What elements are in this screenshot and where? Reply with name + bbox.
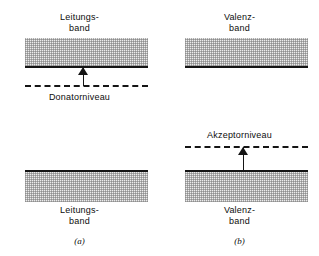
panel-b-akzeptor-level-label: Akzeptorniveau bbox=[160, 130, 319, 141]
arrow-head-up-icon bbox=[78, 67, 88, 75]
panel-b-upper-band-label: Valenz- band bbox=[160, 12, 319, 34]
arrow-head-up-icon bbox=[238, 147, 248, 155]
panel-a-upper-band-label-line1: Leitungs- bbox=[0, 12, 159, 23]
panel-b-lower-band-label-line2: band bbox=[160, 216, 319, 227]
panel-b-upper-band bbox=[185, 38, 308, 68]
panel-b-upper-band-label-line1: Valenz- bbox=[160, 12, 319, 23]
panel-b-upper-band-label-line2: band bbox=[160, 23, 319, 34]
panel-b-lower-band bbox=[185, 170, 308, 202]
panel-a-lower-band-label: Leitungs- band bbox=[0, 205, 159, 227]
panel-b: Valenz- band Akzeptorniveau Valenz- band… bbox=[160, 0, 319, 256]
panel-a-lower-band-label-line1: Leitungs- bbox=[0, 205, 159, 216]
panel-b-lower-band-label: Valenz- band bbox=[160, 205, 319, 227]
panel-a-excitation-arrow bbox=[78, 67, 89, 86]
panel-a-donator-level-label: Donatorniveau bbox=[0, 92, 159, 103]
panel-a-caption: (a) bbox=[0, 236, 159, 246]
panel-a: Leitungs- band Donatorniveau Leitungs- b… bbox=[0, 0, 159, 256]
band-diagram-figure: Leitungs- band Donatorniveau Leitungs- b… bbox=[0, 0, 319, 256]
panel-a-upper-band bbox=[25, 38, 148, 68]
panel-a-lower-band bbox=[25, 170, 148, 202]
panel-a-lower-band-label-line2: band bbox=[0, 216, 159, 227]
panel-b-lower-band-label-line1: Valenz- bbox=[160, 205, 319, 216]
panel-a-donator-level-line bbox=[25, 85, 148, 87]
panel-a-upper-band-label: Leitungs- band bbox=[0, 12, 159, 34]
panel-b-excitation-arrow bbox=[238, 147, 249, 171]
panel-a-upper-band-label-line2: band bbox=[0, 23, 159, 34]
panel-b-caption: (b) bbox=[160, 236, 319, 246]
